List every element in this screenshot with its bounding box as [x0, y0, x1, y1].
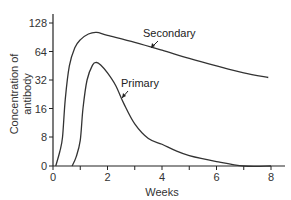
y-axis-label-line2: antibody [21, 73, 33, 115]
x-tick-label: 0 [50, 171, 56, 183]
antibody-response-chart: 0816326412802468 Weeks Concentration of … [0, 0, 291, 200]
y-axis-label-line1: Concentration of [8, 53, 20, 135]
y-tick-label: 32 [35, 74, 47, 86]
curves [56, 32, 271, 166]
y-tick-label: 16 [35, 103, 47, 115]
y-tick-label: 128 [29, 17, 47, 29]
annotation-primary: Primary [121, 77, 159, 89]
annotation-secondary: Secondary [143, 27, 196, 39]
y-tick-label: 8 [41, 131, 47, 143]
annotation-arrows [122, 41, 158, 98]
series-line-primary [72, 62, 271, 166]
x-tick-label: 6 [213, 171, 219, 183]
axes: 0816326412802468 [29, 14, 285, 183]
x-axis-label: Weeks [145, 186, 179, 198]
x-tick-label: 8 [268, 171, 274, 183]
x-tick-label: 4 [159, 171, 165, 183]
x-tick-label: 2 [104, 171, 110, 183]
y-tick-label: 0 [41, 160, 47, 172]
y-tick-label: 64 [35, 46, 47, 58]
series-line-secondary [56, 32, 269, 166]
